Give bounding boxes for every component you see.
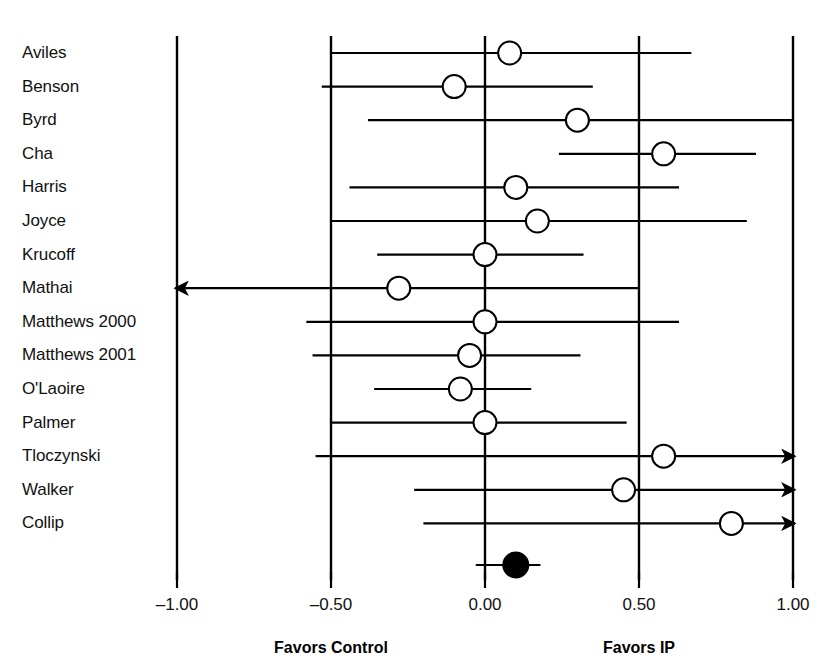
study-marker[interactable] bbox=[443, 75, 466, 98]
study-marker[interactable] bbox=[498, 42, 521, 65]
x-tick-label: –0.50 bbox=[271, 596, 391, 613]
study-marker[interactable] bbox=[566, 109, 589, 132]
study-label: Mathai bbox=[22, 279, 72, 296]
study-marker[interactable] bbox=[449, 378, 472, 401]
study-marker[interactable] bbox=[612, 478, 635, 501]
study-label: Benson bbox=[22, 78, 79, 95]
study-label: Matthews 2000 bbox=[22, 313, 136, 330]
x-tick-label: 1.00 bbox=[733, 596, 835, 613]
study-label: Walker bbox=[22, 481, 74, 498]
study-marker[interactable] bbox=[474, 310, 497, 333]
study-marker[interactable] bbox=[458, 344, 481, 367]
x-tick-label: –1.00 bbox=[117, 596, 237, 613]
study-label: Harris bbox=[22, 178, 67, 195]
study-label: Collip bbox=[22, 514, 64, 531]
x-tick-label: 0.00 bbox=[425, 596, 545, 613]
study-label: Tloczynski bbox=[22, 447, 100, 464]
study-label: Joyce bbox=[22, 212, 66, 229]
forest-plot-canvas bbox=[0, 0, 835, 666]
study-marker[interactable] bbox=[387, 277, 410, 300]
forest-plot: AvilesBensonByrdChaHarrisJoyceKrucoffMat… bbox=[0, 0, 835, 666]
axis-caption-right: Favors IP bbox=[519, 640, 759, 656]
study-marker[interactable] bbox=[652, 142, 675, 165]
axis-ticks bbox=[177, 572, 793, 588]
study-marker[interactable] bbox=[504, 176, 527, 199]
x-tick-label: 0.50 bbox=[579, 596, 699, 613]
study-marker[interactable] bbox=[526, 210, 549, 233]
study-label: Cha bbox=[22, 145, 53, 162]
study-label: Aviles bbox=[22, 44, 66, 61]
study-label: Krucoff bbox=[22, 246, 75, 263]
study-label: Matthews 2001 bbox=[22, 346, 136, 363]
study-marker[interactable] bbox=[652, 445, 675, 468]
study-label: O'Laoire bbox=[22, 380, 85, 397]
gridlines bbox=[177, 36, 793, 580]
summary-marker[interactable] bbox=[503, 553, 528, 578]
study-label: Palmer bbox=[22, 414, 75, 431]
axis-caption-left: Favors Control bbox=[211, 640, 451, 656]
study-label: Byrd bbox=[22, 111, 57, 128]
study-marker[interactable] bbox=[474, 411, 497, 434]
study-marker[interactable] bbox=[474, 243, 497, 266]
study-marker[interactable] bbox=[720, 512, 743, 535]
